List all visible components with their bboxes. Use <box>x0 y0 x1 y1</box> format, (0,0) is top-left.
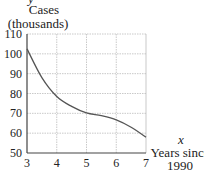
y-tick-label: 90 <box>0 68 22 80</box>
x-tick-label: 4 <box>51 157 63 169</box>
x-axis-label-line2: 1990 <box>150 159 204 173</box>
y-tick-label: 60 <box>0 127 22 139</box>
y-tick-label: 110 <box>0 28 22 40</box>
y-tick-label: 50 <box>0 147 22 159</box>
y-tick-label: 80 <box>0 88 22 100</box>
x-tick-label: 3 <box>21 157 33 169</box>
gridlines <box>27 34 146 153</box>
y-tick-label: 100 <box>0 48 22 60</box>
y-tick-label: 70 <box>0 107 22 119</box>
x-tick-label: 5 <box>81 157 93 169</box>
x-tick-label: 6 <box>110 157 122 169</box>
